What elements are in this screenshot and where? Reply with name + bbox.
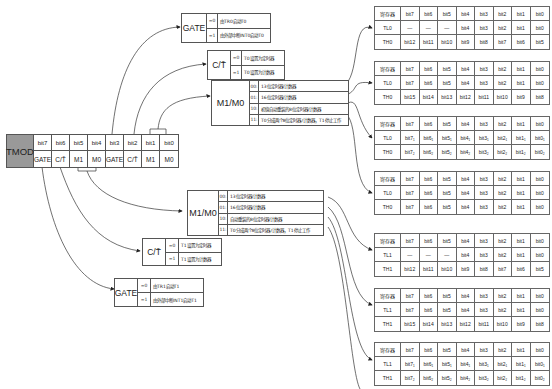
bit-cell: bit3 (475, 62, 494, 76)
tmod-bit-label: bit6 (52, 135, 70, 151)
register-name-cell: 寄存器 (375, 62, 401, 76)
option-code: =0 (166, 239, 179, 252)
bit-cell: bit7 (401, 7, 420, 21)
register-table-t0-mode2: 寄存器bit7bit6bit5bit4bit3bit2bit1bit0TL0bi… (374, 116, 550, 160)
tmod-bit-grid: bit7 bit6 bit5 bit4 bit3 bit2 bit1 bit0 … (34, 135, 178, 167)
option-code: 10: (219, 214, 228, 224)
bit-cell: bit8 (531, 317, 550, 331)
bit-cell: bit7 (401, 62, 420, 76)
bit-cell: bit3 (475, 21, 494, 35)
tmod-field-t1-ct: C/T̄ (52, 151, 70, 167)
bit-cell: bit3 (475, 186, 494, 200)
bit-cell: bit3 (475, 303, 494, 317)
bit-cell: bit7 (494, 35, 513, 49)
bit-cell: bit15 (401, 90, 420, 104)
bit-cell: bit7 (401, 289, 420, 303)
bit-cell: bit5₂ (438, 145, 457, 159)
bit-cell: bit5 (438, 289, 457, 303)
bit-cell: bit4 (457, 7, 476, 21)
option-desc: 由TR0启动T0 (218, 14, 270, 28)
register-table-t0-mode3: 寄存器bit7bit6bit5bit4bit3bit2bit1bit0TL0bi… (374, 171, 550, 215)
option-code: =0 (231, 51, 242, 65)
register-name-cell: TH1 (375, 262, 401, 276)
bit-cell: bit5₁ (438, 357, 457, 371)
bit-cell: bit0₂ (531, 371, 550, 385)
bit-cell: bit6₁ (420, 357, 439, 371)
option-desc: 初值自动重装的8位定时器/计数器 (259, 104, 348, 114)
tmod-field-t1-m1: M1 (70, 151, 88, 167)
t0-gate-label: GATE (182, 14, 207, 42)
register-name-cell: 寄存器 (375, 117, 401, 131)
bit-cell: bit11 (420, 35, 439, 49)
option-code: =0 (207, 14, 218, 28)
bit-cell: bit7 (401, 234, 420, 248)
register-name-cell: 寄存器 (375, 289, 401, 303)
option-desc: 由TR1启动T1 (151, 279, 203, 292)
bit-cell: bit2₁ (494, 131, 513, 145)
bit-cell: — (420, 21, 439, 35)
bit-cell: bit12 (457, 317, 476, 331)
bit-cell: bit5 (531, 35, 550, 49)
tmod-bit-label: bit4 (88, 135, 106, 151)
tmod-bit-label: bit3 (106, 135, 124, 151)
option-desc: T0分成两个8位定时器/计数器，T1停止工作 (228, 225, 323, 235)
bit-cell: bit2₂ (494, 145, 513, 159)
bit-cell: — (438, 248, 457, 262)
register-table-t1-mode1: 寄存器bit7bit6bit5bit4bit3bit2bit1bit0TL1bi… (374, 288, 550, 332)
bit-cell: bit7 (401, 172, 420, 186)
option-desc: T0分成两个8位定时器/计数器，T1停止工作 (259, 115, 348, 125)
option-code: 00: (219, 191, 228, 201)
bit-cell: bit5₂ (438, 371, 457, 385)
bit-cell: bit0 (531, 343, 550, 357)
bit-cell: bit0 (531, 186, 550, 200)
tmod-field-t1-m0: M0 (88, 151, 106, 167)
bit-cell: bit7 (494, 262, 513, 276)
option-desc: T1设置为计数器 (179, 253, 221, 266)
bit-cell: bit2 (494, 200, 513, 214)
bit-cell: bit4 (457, 343, 476, 357)
register-name-cell: TL1 (375, 248, 401, 262)
bit-cell: bit2 (494, 234, 513, 248)
bit-cell: bit7 (401, 303, 420, 317)
bit-cell: bit5 (438, 303, 457, 317)
t0-ct-label: C/T̄ (208, 51, 231, 79)
bit-cell: bit11 (475, 317, 494, 331)
bit-cell: bit4 (457, 172, 476, 186)
t1-ct-box: C/T̄ =0T1设置为定时器 =1T1设置为计数器 (142, 238, 222, 266)
register-table-t0-mode1: 寄存器bit7bit6bit5bit4bit3bit2bit1bit0TL0bi… (374, 61, 550, 105)
register-name-cell: TH1 (375, 317, 401, 331)
option-desc: T0设置为定时器 (242, 51, 284, 65)
t1-gate-label: GATE (115, 279, 138, 306)
register-name-cell: TL0 (375, 186, 401, 200)
bit-cell: bit8 (475, 35, 494, 49)
bit-cell: bit3 (475, 289, 494, 303)
bit-cell: bit0 (531, 234, 550, 248)
bit-cell: bit4₁ (457, 357, 476, 371)
bit-cell: bit13 (438, 317, 457, 331)
bit-cell: bit1 (512, 21, 531, 35)
bit-cell: bit9 (457, 35, 476, 49)
bit-cell: bit0 (531, 7, 550, 21)
bit-cell: bit3 (475, 172, 494, 186)
bit-cell: bit2 (494, 343, 513, 357)
bit-cell: bit10 (494, 90, 513, 104)
bit-cell: bit4 (457, 186, 476, 200)
bit-cell: bit6 (420, 76, 439, 90)
register-name-cell: 寄存器 (375, 343, 401, 357)
bit-cell: bit4 (457, 62, 476, 76)
tmod-bit-label: bit5 (70, 135, 88, 151)
bit-cell: — (438, 21, 457, 35)
bit-cell: bit14 (420, 90, 439, 104)
bit-cell: bit5 (438, 200, 457, 214)
register-name-cell: 寄存器 (375, 7, 401, 21)
bit-cell: bit1 (512, 62, 531, 76)
bit-cell: bit1 (512, 7, 531, 21)
bit-cell: bit7₂ (401, 371, 420, 385)
bit-cell: bit3 (475, 117, 494, 131)
register-table-t1-mode2: 寄存器bit7bit6bit5bit4bit3bit2bit1bit0TL1bi… (374, 342, 550, 386)
bit-cell: bit8 (475, 262, 494, 276)
bit-cell: bit4 (457, 303, 476, 317)
bit-cell: bit11 (475, 90, 494, 104)
bit-cell: bit5 (438, 343, 457, 357)
tmod-bit-label: bit0 (160, 135, 178, 151)
